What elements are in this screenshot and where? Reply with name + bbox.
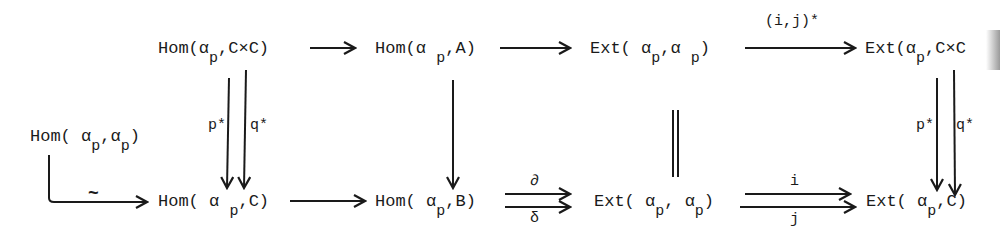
subscript: p [229, 203, 238, 220]
label-q-star-left: q* [250, 118, 268, 133]
node-text: ,α [100, 127, 120, 146]
node-text: α [199, 39, 209, 58]
arrow-p-star-left [227, 78, 229, 188]
node-text: , α [664, 192, 695, 211]
subscript: p [655, 203, 664, 220]
node-text: Ext( α [590, 39, 651, 58]
node-hom-alpha-p-b: Hom( αp,B) [375, 193, 476, 210]
scan-edge-shadow [986, 30, 1000, 70]
node-hom-alpha-p-a: Hom(α p,A) [375, 40, 476, 57]
node-hom-alpha-p-cxc: Hom(αp,C×C) [158, 40, 269, 57]
node-ext-alpha-p-c: Ext( αp,C) [866, 193, 967, 210]
node-ext-alpha-p-alpha-p-bottom: Ext( αp, αp) [594, 193, 714, 210]
node-text: Hom( [158, 39, 199, 58]
node-text: Hom( α [375, 192, 436, 211]
subscript: p [436, 203, 445, 220]
node-text: ,C) [936, 192, 967, 211]
node-text: Hom(α [375, 39, 426, 58]
node-hom-alpha-p-c: Hom( α p,C) [158, 193, 269, 210]
subscript: p [691, 50, 700, 67]
subscript: p [436, 50, 445, 67]
node-text: Hom( α [158, 192, 219, 211]
node-ext-alpha-p-cxc: Ext(αp,C×C [865, 40, 966, 57]
label-q-star-right: q* [956, 118, 974, 133]
node-hom-alpha-p-alpha-p: Hom( αp,αp) [30, 128, 140, 145]
subscript: p [209, 50, 218, 67]
label-partial: ∂ [530, 174, 539, 189]
arrow-q-star-left [244, 70, 246, 188]
subscript: p [91, 138, 100, 155]
label-i: i [790, 174, 799, 189]
node-text: Ext( α [866, 192, 927, 211]
subscript: p [695, 203, 704, 220]
subscript: p [916, 50, 925, 67]
node-text: ) [700, 39, 710, 58]
node-ext-alpha-p-alpha-p-top: Ext( αp,α p) [590, 40, 710, 57]
node-text: ) [130, 127, 140, 146]
label-p-star-left: p* [208, 118, 226, 133]
node-text: ,A) [445, 39, 476, 58]
subscript: p [927, 203, 936, 220]
subscript: p [121, 138, 130, 155]
commutative-diagram: Hom(αp,C×C) Hom(α p,A) Ext( αp,α p) Ext(… [0, 0, 1000, 237]
node-text: ,C×C) [218, 39, 269, 58]
node-text: ,B) [445, 192, 476, 211]
node-text: ,C×C [925, 39, 966, 58]
node-text: Hom( α [30, 127, 91, 146]
label-ij-star: (i,j)* [765, 14, 819, 29]
node-text: ) [704, 192, 714, 211]
arrow-q-star-right [954, 70, 955, 195]
label-j: j [790, 212, 799, 227]
label-delta: δ [530, 211, 539, 226]
node-text: Ext( α [594, 192, 655, 211]
node-text: ,C) [238, 192, 269, 211]
node-text: Ext(α [865, 39, 916, 58]
arrows-layer [0, 0, 1000, 237]
label-p-star-right: p* [916, 118, 934, 133]
label-tilde-iso: ~ [88, 185, 99, 203]
node-text: ,α [660, 39, 680, 58]
subscript: p [651, 50, 660, 67]
